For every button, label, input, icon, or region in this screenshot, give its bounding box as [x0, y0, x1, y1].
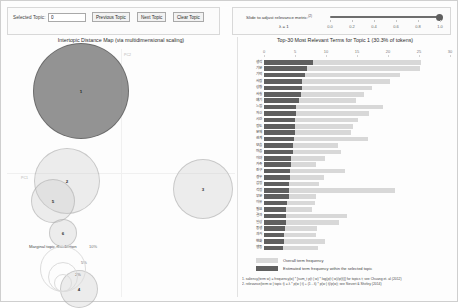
- term-label[interactable]: 과거: [256, 233, 262, 237]
- bar-overall-frequency[interactable]: [264, 182, 319, 187]
- term-bar-row[interactable]: 이유: [238, 201, 452, 206]
- bar-overall-frequency[interactable]: [264, 188, 395, 193]
- term-bar-row[interactable]: 느낌: [238, 105, 452, 110]
- bar-topic-frequency[interactable]: [264, 137, 294, 142]
- bar-topic-frequency[interactable]: [264, 214, 286, 219]
- bar-overall-frequency[interactable]: [264, 73, 400, 78]
- term-bar-row[interactable]: 마음: [238, 150, 452, 155]
- term-label[interactable]: 이야: [256, 157, 262, 161]
- next-topic-button[interactable]: Next Topic: [137, 12, 166, 22]
- term-label[interactable]: 변화: [256, 240, 262, 244]
- bar-topic-frequency[interactable]: [264, 111, 296, 116]
- bar-topic-frequency[interactable]: [264, 98, 299, 103]
- bar-topic-frequency[interactable]: [264, 194, 289, 199]
- term-label[interactable]: 사람: [256, 80, 262, 84]
- bar-overall-frequency[interactable]: [264, 124, 353, 129]
- term-label[interactable]: 모습: [256, 144, 262, 148]
- term-bar-row[interactable]: 사실: [238, 92, 452, 97]
- term-label[interactable]: 자신: [256, 112, 262, 116]
- bar-overall-frequency[interactable]: [264, 150, 341, 155]
- term-bar-row[interactable]: 행동: [238, 246, 452, 251]
- term-bar-row[interactable]: 얘기: [238, 98, 452, 103]
- bar-overall-frequency[interactable]: [264, 156, 325, 161]
- term-label[interactable]: 친구: [256, 169, 262, 173]
- term-label[interactable]: 관계: [256, 137, 262, 141]
- bar-overall-frequency[interactable]: [264, 111, 369, 116]
- bar-overall-frequency[interactable]: [264, 220, 339, 225]
- term-bar-row[interactable]: 가족: [238, 162, 452, 167]
- term-label[interactable]: 마음: [256, 150, 262, 154]
- term-label[interactable]: 동생: [256, 227, 262, 231]
- term-bar-row[interactable]: 문제: [238, 130, 452, 135]
- bar-overall-frequency[interactable]: [264, 86, 372, 91]
- term-bar-row[interactable]: 사람: [238, 79, 452, 84]
- bar-overall-frequency[interactable]: [264, 66, 420, 71]
- clear-topic-button[interactable]: Clear Topic: [173, 12, 204, 22]
- term-bar-row[interactable]: 시간: [238, 118, 452, 123]
- term-label[interactable]: 부분: [256, 195, 262, 199]
- term-bar-row[interactable]: 정도: [238, 124, 452, 129]
- bar-overall-frequency[interactable]: [264, 175, 324, 180]
- bar-topic-frequency[interactable]: [264, 92, 301, 97]
- term-label[interactable]: 경우: [256, 176, 262, 180]
- term-bar-row[interactable]: 생각: [238, 60, 452, 65]
- bar-overall-frequency[interactable]: [264, 105, 383, 110]
- term-label[interactable]: 시간: [256, 118, 262, 122]
- term-label[interactable]: 사실: [256, 93, 262, 97]
- relevance-slider-track[interactable]: [330, 16, 440, 18]
- term-label[interactable]: 얘기: [256, 99, 262, 103]
- term-bar-row[interactable]: 과거: [238, 233, 452, 238]
- term-bar-row[interactable]: 감정: [238, 182, 452, 187]
- term-bar-row[interactable]: 필요: [238, 207, 452, 212]
- bar-topic-frequency[interactable]: [264, 73, 305, 78]
- term-bar-row[interactable]: 결과: [238, 214, 452, 219]
- term-bar-row[interactable]: 동생: [238, 226, 452, 231]
- bar-overall-frequency[interactable]: [264, 233, 316, 238]
- bar-topic-frequency[interactable]: [264, 239, 284, 244]
- bar-topic-frequency[interactable]: [264, 105, 296, 110]
- bar-overall-frequency[interactable]: [264, 214, 347, 219]
- bar-topic-frequency[interactable]: [264, 169, 290, 174]
- bar-overall-frequency[interactable]: [264, 226, 317, 231]
- bar-topic-frequency[interactable]: [264, 150, 293, 155]
- term-label[interactable]: 느낌: [256, 105, 262, 109]
- term-label[interactable]: 생각: [256, 61, 262, 65]
- term-bar-row[interactable]: 일상: [238, 220, 452, 225]
- bar-topic-frequency[interactable]: [264, 118, 295, 123]
- bar-topic-frequency[interactable]: [264, 188, 289, 193]
- bar-overall-frequency[interactable]: [264, 201, 315, 206]
- term-label[interactable]: 감정: [256, 182, 262, 186]
- bar-topic-frequency[interactable]: [264, 79, 302, 84]
- bar-topic-frequency[interactable]: [264, 124, 295, 129]
- bar-topic-frequency[interactable]: [264, 130, 295, 135]
- bar-overall-frequency[interactable]: [264, 98, 356, 103]
- term-bar-row[interactable]: 상황: [238, 86, 452, 91]
- term-label[interactable]: 걱정: [256, 189, 262, 193]
- term-label[interactable]: 기분: [256, 67, 262, 71]
- topic-bubble-1[interactable]: 1: [33, 43, 129, 139]
- term-label[interactable]: 행동: [256, 246, 262, 250]
- bar-topic-frequency[interactable]: [264, 246, 283, 251]
- term-label[interactable]: 이유: [256, 201, 262, 205]
- term-bar-row[interactable]: 이야: [238, 156, 452, 161]
- bar-overall-frequency[interactable]: [264, 169, 345, 174]
- term-bar-row[interactable]: 관계: [238, 137, 452, 142]
- topic-bubble-3[interactable]: 3: [173, 159, 233, 219]
- term-label[interactable]: 필요: [256, 208, 262, 212]
- term-bar-row[interactable]: 모습: [238, 143, 452, 148]
- bar-overall-frequency[interactable]: [264, 118, 358, 123]
- bar-overall-frequency[interactable]: [264, 137, 368, 142]
- bar-topic-frequency[interactable]: [264, 86, 302, 91]
- term-label[interactable]: 정도: [256, 125, 262, 129]
- bar-topic-frequency[interactable]: [264, 226, 285, 231]
- term-bar-row[interactable]: 친구: [238, 169, 452, 174]
- term-label[interactable]: 일상: [256, 221, 262, 225]
- bar-overall-frequency[interactable]: [264, 162, 316, 167]
- bar-topic-frequency[interactable]: [264, 66, 307, 71]
- bar-topic-frequency[interactable]: [264, 175, 290, 180]
- term-bar-row[interactable]: 기억: [238, 73, 452, 78]
- term-label[interactable]: 결과: [256, 214, 262, 218]
- topic-bubble-5[interactable]: 5: [31, 179, 75, 223]
- bar-topic-frequency[interactable]: [264, 201, 287, 206]
- bar-topic-frequency[interactable]: [264, 156, 291, 161]
